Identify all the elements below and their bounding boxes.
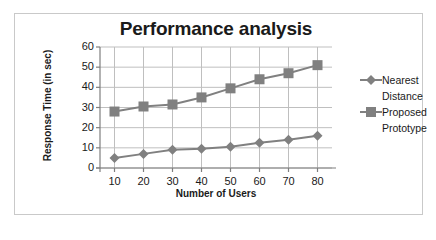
legend-square-marker-icon (360, 105, 382, 119)
data-point-marker[interactable] (255, 138, 265, 148)
data-point-marker[interactable] (226, 142, 236, 152)
legend-item-1[interactable]: ProposedPrototype (360, 102, 427, 134)
legend-item-0[interactable]: NearestDistance (360, 70, 423, 102)
legend-label-line1: Nearest (382, 74, 419, 86)
y-axis-tick-label: 30 (70, 101, 94, 115)
data-point-marker[interactable] (139, 149, 149, 159)
data-point-marker[interactable] (313, 60, 323, 70)
y-axis-tick-value: 30 (70, 101, 94, 113)
data-point-marker[interactable] (139, 101, 149, 111)
legend-label-line2: Distance (382, 90, 423, 102)
y-axis-tick-label: 60 (70, 40, 94, 54)
data-point-marker[interactable] (110, 153, 120, 163)
legend-diamond-marker-icon (360, 73, 382, 87)
data-point-marker[interactable] (110, 107, 120, 117)
y-axis-tick-value: 20 (70, 121, 94, 133)
x-axis-tick-label: 10 (100, 175, 130, 187)
x-axis-tick-label: 70 (274, 175, 304, 187)
y-axis-tick-value: 60 (70, 40, 94, 52)
x-axis-tick-label: 40 (187, 175, 217, 187)
data-point-marker[interactable] (197, 92, 207, 102)
data-point-marker[interactable] (284, 68, 294, 78)
y-axis-tick-value: 40 (70, 80, 94, 92)
x-axis-tick-label: 50 (216, 175, 246, 187)
y-axis-tick-label: 40 (70, 80, 94, 94)
legend-label-line1: Proposed (382, 106, 427, 118)
x-axis-tick-label: 60 (245, 175, 275, 187)
data-point-marker[interactable] (197, 144, 207, 154)
y-axis-tick-value: 10 (70, 141, 94, 153)
data-point-marker[interactable] (226, 83, 236, 93)
data-point-marker[interactable] (284, 135, 294, 145)
data-point-marker[interactable] (168, 145, 178, 155)
data-point-marker[interactable] (168, 99, 178, 109)
y-axis-tick-label: 20 (70, 121, 94, 135)
x-axis-tick-label: 20 (129, 175, 159, 187)
y-axis-tick-value: 50 (70, 60, 94, 72)
x-axis-tick-label: 80 (303, 175, 333, 187)
legend-label-line2: Prototype (382, 122, 427, 134)
data-point-marker[interactable] (255, 74, 265, 84)
y-axis-tick-value: 0 (70, 161, 94, 173)
data-point-marker[interactable] (313, 131, 323, 141)
y-axis-tick-label: 50 (70, 60, 94, 74)
y-axis-tick-label: 0 (70, 161, 94, 175)
x-axis-tick-label: 30 (158, 175, 188, 187)
y-axis-tick-label: 10 (70, 141, 94, 155)
